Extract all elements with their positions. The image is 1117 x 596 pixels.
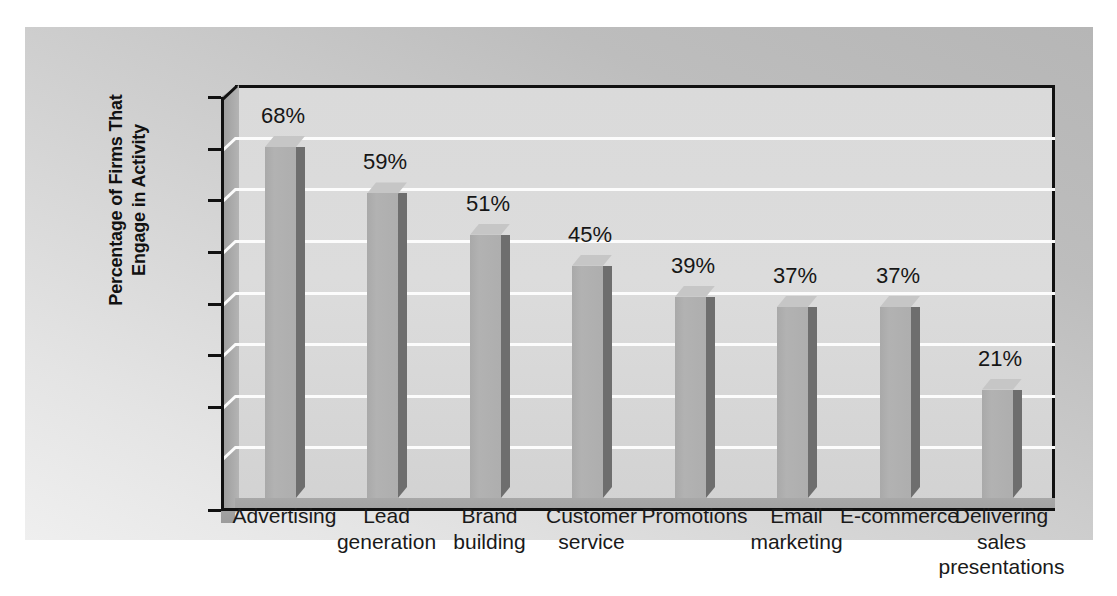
chart-figure: 68%59%51%45%39%37%37%21% 807060504030200… [0, 0, 1117, 596]
x-axis-category-labels: AdvertisingLead generationBrand building… [0, 0, 1117, 596]
x-axis-category-label: Delivering sales presentations [932, 503, 1072, 580]
